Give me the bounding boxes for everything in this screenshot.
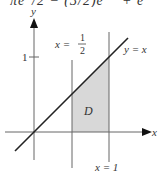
y-axis-label: y <box>30 5 36 17</box>
y-axis-arrow-icon <box>30 18 38 28</box>
x-axis-arrow-icon <box>142 128 152 136</box>
x-half-denominator: 2 <box>80 45 85 56</box>
x-equals-one-label: x = 1 <box>94 161 118 173</box>
x-half-label: x = <box>54 38 70 50</box>
y-equals-x-label: y = x <box>123 43 147 55</box>
region-d-label: D <box>83 104 93 118</box>
y-tick-one-label: 1 <box>22 51 28 63</box>
x-half-numerator: 1 <box>80 32 85 43</box>
x-axis-label: x <box>151 126 157 138</box>
region-diagram: y x 1 x = 1 2 y = x x = 1 D <box>0 0 163 176</box>
region-d <box>72 57 109 132</box>
